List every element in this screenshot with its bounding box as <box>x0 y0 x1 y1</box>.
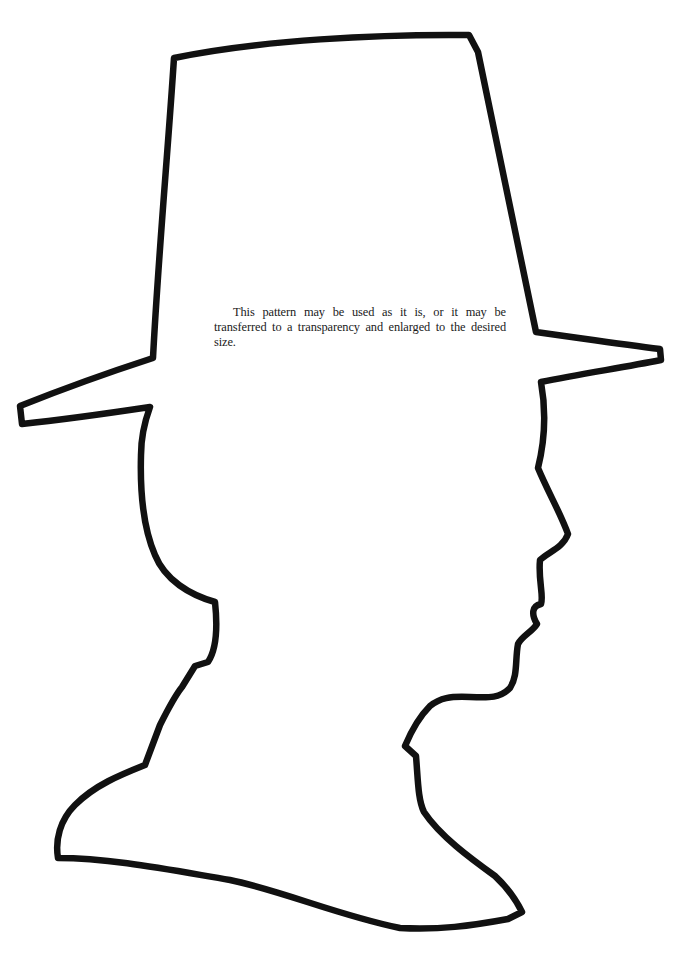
silhouette-outline-path <box>20 35 661 929</box>
hat-silhouette-outline <box>0 0 687 958</box>
pattern-instructions-caption: This pattern may be used as it is, or it… <box>214 305 506 350</box>
pattern-page: This pattern may be used as it is, or it… <box>0 0 687 958</box>
